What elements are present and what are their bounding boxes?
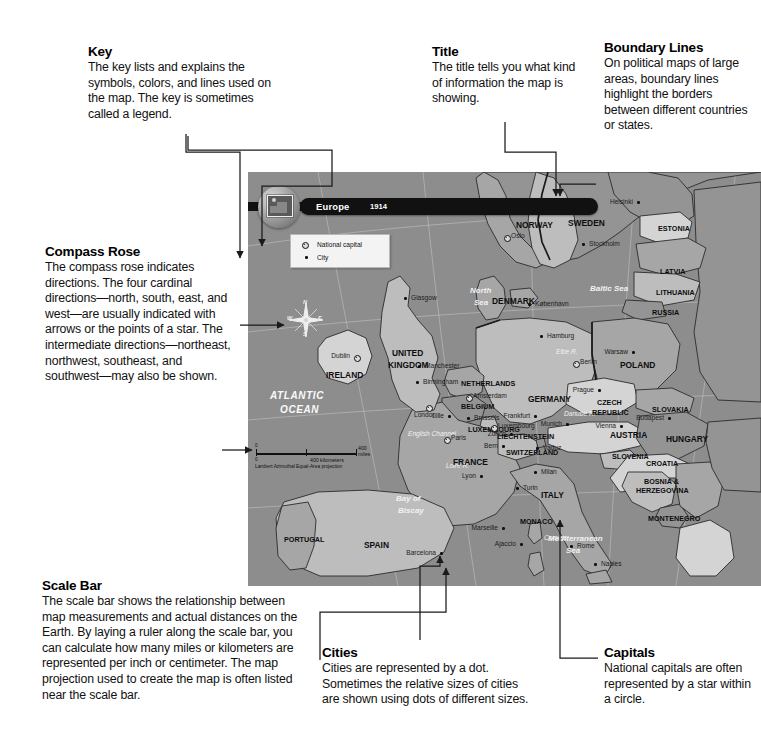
capital-label: Oslo xyxy=(511,232,525,239)
city-label: Naples xyxy=(601,560,622,567)
city-label: Helsinki xyxy=(610,198,633,205)
water-label: North xyxy=(470,286,491,295)
city-dot-icon xyxy=(582,243,585,246)
map-image: .l { stroke:#2b2b2b; stroke-width:.9; } … xyxy=(248,172,761,586)
city-dot-icon xyxy=(540,335,543,338)
city-label: Zurich xyxy=(488,430,506,437)
country-label: ESTONIA xyxy=(658,224,690,233)
city-dot-icon xyxy=(536,447,539,450)
annotation-capitals: Capitals National capitals are often rep… xyxy=(604,645,754,708)
city-dot-icon xyxy=(520,543,523,546)
map-title-year: 1914 xyxy=(370,202,387,211)
annotation-compass-body: The compass rose indicates directions. T… xyxy=(45,260,235,385)
country-label: BOSNIA & xyxy=(644,477,679,486)
city-dot-icon xyxy=(534,415,537,418)
city-dot-icon xyxy=(637,201,640,204)
city-dot-icon xyxy=(632,351,635,354)
diagram-stage: Key The key lists and explains the symbo… xyxy=(0,0,761,755)
city-dot-icon xyxy=(620,425,623,428)
city-label: Vaduz xyxy=(543,444,561,451)
city-label: Brussels xyxy=(474,414,499,421)
country-label: UNITED xyxy=(392,348,423,358)
legend-capital-symbol-icon xyxy=(302,242,309,249)
country-label: NETHERLANDS xyxy=(461,379,515,388)
scale-tick-end xyxy=(356,449,357,456)
city-label: Lyon xyxy=(462,472,476,479)
legend-city-symbol-icon xyxy=(305,256,308,259)
city-label: Stockholm xyxy=(589,240,620,247)
country-label: SLOVAKIA xyxy=(652,405,689,414)
country-label: IRELAND xyxy=(326,370,363,380)
capital-marker-icon xyxy=(466,395,473,402)
country-label: RUSSIA xyxy=(652,308,679,317)
water-label: Baltic Sea xyxy=(590,284,628,293)
annotation-cities: Cities Cities are represented by a dot. … xyxy=(322,645,537,708)
capital-label: Amsterdam xyxy=(473,392,507,399)
city-label: Warsaw xyxy=(604,348,628,355)
city-dot-icon xyxy=(566,423,569,426)
city-label: Bern xyxy=(484,442,498,449)
city-dot-icon xyxy=(467,417,470,420)
city-label: Budapest xyxy=(636,414,664,421)
city-dot-icon xyxy=(440,552,443,555)
annotation-title: Title The title tells you what kind of i… xyxy=(432,44,582,107)
annotation-title-body: The title tells you what kind of informa… xyxy=(432,60,582,107)
country-label: ITALY xyxy=(541,490,564,500)
city-dot-icon xyxy=(404,297,407,300)
city-dot-icon xyxy=(480,475,483,478)
scale-miles-label: 400 miles xyxy=(358,445,372,457)
country-label: REPUBLIC xyxy=(592,408,629,417)
country-label: GERMANY xyxy=(528,394,571,404)
water-label: OCEAN xyxy=(280,404,319,415)
city-dot-icon xyxy=(668,417,671,420)
scale-zero-miles: 0 xyxy=(255,443,258,448)
compass-west-label: W xyxy=(287,315,292,321)
photo-thumbnail-icon xyxy=(267,195,293,217)
scale-tick-mid xyxy=(306,449,307,456)
annotation-key-title: Key xyxy=(88,44,284,59)
annotation-compass-title: Compass Rose xyxy=(45,244,235,259)
country-label: LATVIA xyxy=(660,267,685,276)
map-title-banner: Europe 1914 xyxy=(300,198,598,215)
country-label: SPAIN xyxy=(364,540,389,550)
annotation-scale-bar: Scale Bar The scale bar shows the relati… xyxy=(42,578,300,703)
water-label: ATLANTIC xyxy=(270,390,324,401)
city-dot-icon xyxy=(528,303,531,306)
country-label: HUNGARY xyxy=(666,434,708,444)
compass-east-label: E xyxy=(318,315,322,321)
annotation-key: Key The key lists and explains the symbo… xyxy=(88,44,284,122)
capital-marker-icon xyxy=(573,361,580,368)
city-dot-icon xyxy=(448,415,451,418)
city-dot-icon xyxy=(594,563,597,566)
capital-label: Paris xyxy=(451,434,466,441)
city-dot-icon xyxy=(516,487,519,490)
country-label: AUSTRIA xyxy=(610,430,647,440)
compass-north-label: N xyxy=(303,299,307,305)
country-label: HERZEGOVINA xyxy=(636,486,689,495)
city-dot-icon xyxy=(570,545,573,548)
country-label: NORWAY xyxy=(516,220,553,230)
scale-zero-kilometers: 0 xyxy=(255,457,258,462)
country-label: KINGDOM xyxy=(388,360,428,370)
annotation-cities-body: Cities are represented by a dot. Sometim… xyxy=(322,661,537,708)
country-label: CROATIA xyxy=(646,459,678,468)
city-label: Hamburg xyxy=(547,332,574,339)
country-label: BELGIUM xyxy=(461,402,494,411)
country-label: MONACO xyxy=(520,517,553,526)
city-label: København xyxy=(535,300,569,307)
map-legend-box: National capital City xyxy=(290,234,390,268)
capital-label: Berlin xyxy=(580,358,597,365)
city-dot-icon xyxy=(510,433,513,436)
city-label: Manchester xyxy=(425,362,459,369)
city-label: Ajaccio xyxy=(495,540,516,547)
city-dot-icon xyxy=(598,389,601,392)
annotation-cities-title: Cities xyxy=(322,645,537,660)
city-label: Vienna xyxy=(596,422,616,429)
water-label: Danube R. xyxy=(564,410,596,417)
legend-city-label: City xyxy=(317,254,328,261)
annotation-compass-rose: Compass Rose The compass rose indicates … xyxy=(45,244,235,385)
scale-kilometers-label: 400 kilometers xyxy=(310,457,344,463)
city-dot-icon xyxy=(418,365,421,368)
capital-label: Luxembourg xyxy=(498,422,535,429)
annotation-capitals-body: National capitals are often represented … xyxy=(604,661,754,708)
